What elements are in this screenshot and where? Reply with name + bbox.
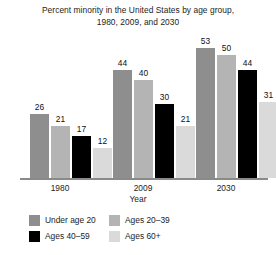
bar-rect: [51, 126, 70, 178]
bar-2030-under-age-20[interactable]: 53: [196, 48, 215, 178]
legend-row-2: Ages 40–59 Ages 60+: [29, 228, 249, 244]
legend-item-ages-60-plus[interactable]: Ages 60+: [109, 228, 219, 244]
bar-rect: [30, 114, 49, 178]
legend-swatch-icon: [109, 231, 120, 242]
legend-swatch-icon: [29, 215, 40, 226]
bar-value-label: 50: [216, 44, 237, 53]
chart-title: Percent minority in the United States by…: [0, 5, 276, 28]
bar-rect: [155, 104, 174, 178]
x-axis-title: Year: [0, 194, 276, 205]
legend-swatch-icon: [29, 231, 40, 242]
bar-value-label: 17: [71, 125, 92, 134]
bar-value-label: 40: [133, 69, 154, 78]
legend-label: Ages 20–39: [125, 215, 170, 226]
bar-rect: [93, 148, 112, 178]
bar-chart-figure: Percent minority in the United States by…: [0, 0, 276, 255]
bar-value-label: 21: [50, 115, 71, 124]
bar-value-label: 53: [195, 37, 216, 46]
bar-rect: [113, 70, 132, 178]
bar-group-2030: 53 50 44 31: [196, 30, 276, 178]
chart-legend: Under age 20 Ages 20–39 Ages 40–59 Ages …: [29, 212, 249, 244]
bar-group-1980: 26 21 17 12: [30, 30, 112, 178]
bar-1980-ages-40-59[interactable]: 17: [72, 136, 91, 178]
chart-title-line-2: 1980, 2009, and 2030: [0, 17, 276, 29]
legend-label: Under age 20: [45, 215, 96, 226]
bar-1980-ages-60-plus[interactable]: 12: [93, 148, 112, 178]
bar-value-label: 30: [154, 93, 175, 102]
legend-swatch-icon: [109, 215, 120, 226]
x-axis-line: [20, 178, 268, 180]
bar-2030-ages-40-59[interactable]: 44: [238, 70, 257, 178]
bar-value-label: 31: [258, 91, 276, 100]
bar-2009-under-age-20[interactable]: 44: [113, 70, 132, 178]
legend-label: Ages 40–59: [45, 231, 90, 242]
bar-rect: [176, 126, 195, 178]
bar-1980-under-age-20[interactable]: 26: [30, 114, 49, 178]
bar-value-label: 21: [175, 115, 196, 124]
plot-area: 26 21 17 12 44 40: [20, 30, 265, 178]
bar-rect: [217, 55, 236, 178]
legend-item-ages-40-59[interactable]: Ages 40–59: [29, 228, 109, 244]
bar-group-2009: 44 40 30 21: [113, 30, 195, 178]
bar-2030-ages-60-plus[interactable]: 31: [259, 102, 276, 178]
x-tick-label-1980: 1980: [30, 183, 90, 194]
legend-item-under-age-20[interactable]: Under age 20: [29, 212, 109, 228]
bar-2009-ages-20-39[interactable]: 40: [134, 80, 153, 178]
bar-value-label: 44: [112, 59, 133, 68]
chart-title-line-1: Percent minority in the United States by…: [0, 5, 276, 17]
bar-rect: [259, 102, 276, 178]
legend-row-1: Under age 20 Ages 20–39: [29, 212, 249, 228]
bar-2009-ages-40-59[interactable]: 30: [155, 104, 174, 178]
bar-value-label: 26: [29, 103, 50, 112]
bar-rect: [72, 136, 91, 178]
bar-value-label: 12: [92, 137, 113, 146]
legend-label: Ages 60+: [125, 231, 161, 242]
bar-value-label: 44: [237, 59, 258, 68]
x-tick-label-2030: 2030: [196, 183, 256, 194]
legend-item-ages-20-39[interactable]: Ages 20–39: [109, 212, 219, 228]
x-tick-label-2009: 2009: [113, 183, 173, 194]
bar-rect: [238, 70, 257, 178]
bar-2009-ages-60-plus[interactable]: 21: [176, 126, 195, 178]
bar-rect: [196, 48, 215, 178]
bar-rect: [134, 80, 153, 178]
bar-2030-ages-20-39[interactable]: 50: [217, 55, 236, 178]
bar-1980-ages-20-39[interactable]: 21: [51, 126, 70, 178]
